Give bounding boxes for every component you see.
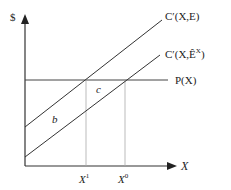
diagram-canvas: $ X C′(X,E) C′(X,ÊX) P(X) b c X1 X0 xyxy=(0,0,231,190)
y-axis-label: $ xyxy=(10,11,16,23)
x-axis-arrow-icon xyxy=(167,162,177,170)
lower-mc-label: C′(X,ÊX) xyxy=(165,47,205,61)
upper-mc-label: C′(X,E) xyxy=(165,10,200,23)
region-b-label: b xyxy=(52,113,58,125)
region-c-label: c xyxy=(96,83,101,95)
lower-mc-curve xyxy=(25,55,160,157)
x1-tick-label: X1 xyxy=(78,172,90,185)
x0-tick-label: X0 xyxy=(117,172,129,185)
x-axis-label: X xyxy=(180,159,189,173)
upper-mc-curve xyxy=(25,20,162,127)
y-axis-arrow-icon xyxy=(21,14,29,24)
price-label: P(X) xyxy=(175,74,197,87)
